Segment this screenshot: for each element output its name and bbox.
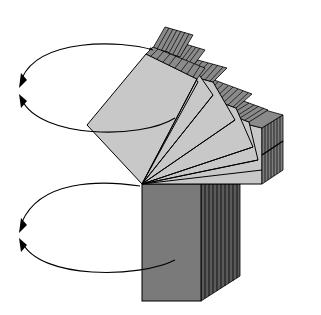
fan-stack <box>87 27 283 184</box>
diagram-canvas <box>0 0 321 315</box>
block-stack-edges <box>201 184 240 301</box>
block-front-face <box>142 184 201 301</box>
rotation-diagram <box>0 0 321 315</box>
lower-arrowhead-bottom-icon <box>19 238 27 252</box>
